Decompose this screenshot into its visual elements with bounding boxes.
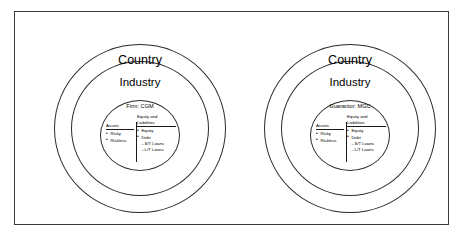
assets-list-left: Risky Riskless xyxy=(106,131,134,144)
list-item: Riskless xyxy=(316,138,344,144)
liabilities-list-left: Equity Debt xyxy=(137,128,176,141)
assets-column-left: Assets Risky Riskless xyxy=(106,114,134,144)
figure-frame: Country Industry Firm: CGM Assets Risky … xyxy=(14,11,449,225)
liabilities-column-right: Equity and Liabilities Equity Debt S/T L… xyxy=(347,114,386,154)
assets-list-right: Risky Riskless xyxy=(316,131,344,144)
liabilities-list-right: Equity Debt xyxy=(347,128,386,141)
assets-header-right: Assets xyxy=(316,114,344,128)
debt-subitems-left: S/T Loans L/T Loans xyxy=(137,141,176,154)
list-item: Riskless xyxy=(106,138,134,144)
assets-header-left: Assets xyxy=(106,114,134,128)
balance-sheet-table-right: Assets Risky Riskless Equity and Liabili… xyxy=(316,114,386,164)
liabilities-header-right: Equity and Liabilities xyxy=(347,114,386,125)
liabilities-header-line2: Liabilities xyxy=(347,120,386,126)
firm-title-left: Firm: CGM xyxy=(100,104,180,110)
assets-column-right: Assets Risky Riskless xyxy=(316,114,344,144)
liabilities-header-left: Equity and Liabilities xyxy=(137,114,176,125)
balance-sheet-left: Firm: CGM Assets Risky Riskless Equity xyxy=(100,100,180,171)
assets-header-rule-left xyxy=(106,129,134,130)
industry-label-right: Industry xyxy=(264,77,436,89)
liabilities-header-line2: Liabilities xyxy=(137,120,176,126)
nested-circle-group-right: Country Industry Guarantor: MGC Assets R… xyxy=(264,44,436,213)
liabilities-header-rule-left xyxy=(137,126,176,127)
nested-circle-group-left: Country Industry Firm: CGM Assets Risky … xyxy=(54,44,226,213)
debt-subitems-right: S/T Loans L/T Loans xyxy=(347,141,386,154)
list-item: L/T Loans xyxy=(352,147,387,153)
guarantor-title-right: Guarantor: MGC xyxy=(310,104,390,110)
balance-sheet-right: Guarantor: MGC Assets Risky Riskless E xyxy=(310,100,390,171)
assets-header-rule-right xyxy=(316,129,344,130)
liabilities-column-left: Equity and Liabilities Equity Debt S/T L… xyxy=(137,114,176,154)
balance-sheet-table-left: Assets Risky Riskless Equity and Liabili… xyxy=(106,114,176,164)
country-label-left: Country xyxy=(54,54,226,67)
diagram-canvas: Country Industry Firm: CGM Assets Risky … xyxy=(0,0,466,241)
industry-label-left: Industry xyxy=(54,77,226,89)
country-label-right: Country xyxy=(264,54,436,67)
liabilities-header-rule-right xyxy=(347,126,386,127)
list-item: L/T Loans xyxy=(142,147,177,153)
